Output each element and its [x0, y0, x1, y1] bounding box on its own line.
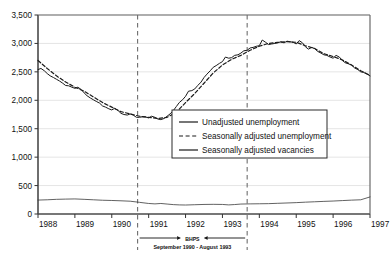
bhps-annotation: BHPSSeptember 1990 - August 1993 — [140, 236, 246, 250]
y-tick-label-1500: 1,500 — [12, 125, 33, 134]
chart-container: 05001,0001,5002,0002,5003,0003,500 19881… — [0, 0, 390, 266]
chart-legend[interactable]: Unadjusted unemploymentSeasonally adjust… — [172, 110, 332, 158]
y-tick-label-0: 0 — [27, 210, 32, 219]
y-axis-ticks: 05001,0001,5002,0002,5003,0003,500 — [12, 11, 39, 219]
x-tick-label-1995: 1995 — [297, 220, 316, 229]
legend-label-3[interactable]: Seasonally adjusted vacancies — [202, 146, 314, 155]
x-tick-label-1988: 1988 — [39, 220, 58, 229]
series-line-seasonally-adjusted-vacancies — [38, 197, 370, 205]
y-tick-label-2500: 2,500 — [12, 68, 33, 77]
y-tick-label-1000: 1,000 — [12, 153, 33, 162]
y-tick-label-3000: 3,000 — [12, 39, 33, 48]
bhps-arrow-left-head — [177, 236, 180, 240]
x-tick-label-1989: 1989 — [76, 220, 95, 229]
y-tick-label-2000: 2,000 — [12, 96, 33, 105]
legend-label-1[interactable]: Unadjusted unemployment — [202, 118, 300, 127]
y-tick-label-3500: 3,500 — [12, 11, 33, 20]
x-axis-ticks: 1988198919901991199219931994199519961997 — [38, 214, 390, 229]
y-tick-label-500: 500 — [18, 182, 32, 191]
x-tick-label-1996: 1996 — [334, 220, 353, 229]
bhps-label: BHPS — [185, 236, 200, 242]
x-tick-label-1992: 1992 — [187, 220, 206, 229]
legend-label-2[interactable]: Seasonally adjusted unemployment — [202, 132, 332, 141]
bhps-period-label: September 1990 - August 1993 — [153, 244, 231, 250]
x-tick-label-1990: 1990 — [113, 220, 132, 229]
gridlines — [38, 15, 370, 186]
x-tick-label-1994: 1994 — [260, 220, 279, 229]
x-tick-label-1993: 1993 — [223, 220, 242, 229]
x-tick-label-1991: 1991 — [150, 220, 169, 229]
x-tick-label-1997: 1997 — [371, 220, 390, 229]
bhps-arrow-right-head — [204, 236, 207, 240]
unemployment-vacancies-line-chart: 05001,0001,5002,0002,5003,0003,500 19881… — [0, 0, 390, 266]
